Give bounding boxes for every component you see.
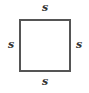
side-label-left: s xyxy=(5,39,17,50)
side-label-top: s xyxy=(39,2,51,13)
side-label-bottom: s xyxy=(39,76,51,87)
square-shape xyxy=(19,19,71,72)
side-label-right: s xyxy=(73,39,85,50)
